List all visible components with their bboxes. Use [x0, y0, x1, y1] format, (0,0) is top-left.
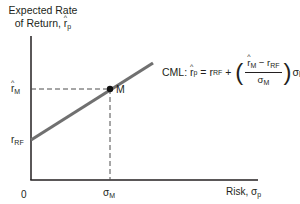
y-tick-rm-symbol: r [11, 83, 14, 94]
formula-minus: − [256, 57, 267, 68]
x-axis-label-text: Risk, [226, 186, 251, 197]
formula-lhs: r [190, 67, 194, 78]
x-tick-sub: M [109, 192, 115, 199]
formula-denominator: σM [258, 73, 270, 88]
cml-line [31, 63, 153, 140]
formula-right-paren: ) [284, 61, 292, 83]
y-axis-label-text: of Return, [15, 17, 64, 29]
x-axis-label-sub: p [257, 191, 261, 198]
origin-label: 0 [21, 189, 27, 200]
y-tick-rm-sub: M [14, 88, 20, 95]
point-m-label: M [116, 84, 125, 95]
formula-den-sub: M [263, 79, 269, 86]
formula-tail-sub: p [299, 67, 300, 78]
formula-equals: = [197, 67, 209, 78]
y-tick-rrf: rRF [11, 134, 24, 148]
formula-left-paren: ( [235, 61, 243, 83]
formula-numerator: rM − rRF [245, 57, 281, 73]
y-tick-rrf-sub: RF [14, 139, 23, 146]
cml-formula: CML: rp = rRF + ( rM − rRF σM ) σp [162, 57, 300, 88]
y-axis-label-line2: of Return, rp [4, 17, 82, 33]
market-portfolio-point [107, 86, 113, 92]
x-tick-sigma-m: σM [103, 187, 115, 201]
y-axis-label-line1: Expected Rate [4, 4, 82, 17]
x-axis-label: Risk, σp [226, 186, 261, 200]
formula-num-a: r [247, 57, 250, 68]
y-axis-label: Expected Rate of Return, rp [4, 4, 82, 33]
formula-num-b-sub: RF [270, 62, 279, 69]
y-tick-rm: rM [11, 83, 20, 97]
formula-prefix: CML: [162, 67, 190, 78]
y-axis-label-symbol: r [64, 17, 68, 30]
formula-rf-sub: RF [213, 67, 222, 78]
y-axis-label-sub: p [67, 23, 71, 30]
formula-plus: + [222, 67, 234, 78]
formula-fraction: rM − rRF σM [245, 57, 281, 88]
